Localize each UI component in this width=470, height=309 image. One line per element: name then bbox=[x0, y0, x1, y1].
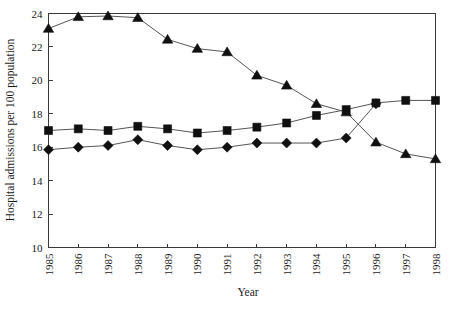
y-axis-title: Hospital admissions per 100 population bbox=[4, 38, 17, 221]
data-point-diamond bbox=[311, 138, 321, 148]
x-tick-labels: 1985198619871988198919901991199219931994… bbox=[43, 253, 442, 276]
data-point-diamond bbox=[133, 135, 143, 145]
x-tick-label: 1986 bbox=[72, 253, 84, 276]
data-point-diamond bbox=[192, 145, 202, 155]
y-tick-label: 16 bbox=[32, 141, 44, 153]
y-tick-label: 24 bbox=[32, 8, 44, 20]
data-point-triangle bbox=[311, 99, 321, 108]
data-point-diamond bbox=[44, 145, 54, 155]
x-tick-label: 1996 bbox=[370, 253, 382, 276]
data-point-square bbox=[402, 96, 410, 104]
y-tick-label: 14 bbox=[32, 175, 44, 187]
data-point-diamond bbox=[282, 138, 292, 148]
data-point-square bbox=[134, 122, 142, 130]
data-point-diamond bbox=[163, 141, 173, 151]
data-point-square bbox=[342, 106, 350, 114]
x-tick-label: 1988 bbox=[132, 253, 144, 276]
series-layer bbox=[43, 11, 440, 163]
data-point-diamond bbox=[73, 142, 83, 152]
x-tick-label: 1997 bbox=[400, 253, 412, 276]
data-point-square bbox=[74, 125, 82, 133]
data-point-triangle bbox=[43, 24, 53, 33]
data-point-square bbox=[253, 123, 261, 131]
x-tick-label: 1994 bbox=[310, 253, 322, 276]
data-point-triangle bbox=[252, 70, 262, 79]
x-axis-ticks bbox=[49, 244, 436, 248]
y-tick-label: 12 bbox=[32, 208, 43, 220]
line-chart: 1012141618202224 19851986198719881989199… bbox=[0, 0, 470, 309]
y-tick-label: 20 bbox=[32, 74, 44, 86]
x-tick-label: 1993 bbox=[281, 253, 293, 276]
x-tick-label: 1989 bbox=[162, 253, 174, 276]
data-point-diamond bbox=[222, 142, 232, 152]
y-tick-label: 10 bbox=[32, 242, 44, 254]
series-line-triangle bbox=[49, 16, 436, 159]
x-tick-label: 1998 bbox=[430, 253, 442, 276]
data-point-square bbox=[164, 125, 172, 133]
x-axis-title: Year bbox=[237, 286, 258, 298]
x-tick-label: 1995 bbox=[340, 253, 352, 276]
data-point-square bbox=[432, 96, 440, 104]
data-point-square bbox=[223, 127, 231, 135]
data-point-square bbox=[312, 111, 320, 119]
chart-container: 1012141618202224 19851986198719881989199… bbox=[0, 0, 470, 309]
series-triangle bbox=[43, 11, 440, 163]
data-point-diamond bbox=[252, 138, 262, 148]
x-tick-label: 1987 bbox=[102, 253, 114, 276]
y-tick-label: 22 bbox=[32, 41, 43, 53]
data-point-triangle bbox=[162, 34, 172, 43]
x-tick-label: 1991 bbox=[221, 254, 233, 276]
x-tick-label: 1990 bbox=[191, 253, 203, 276]
x-tick-label: 1992 bbox=[251, 254, 263, 276]
data-point-triangle bbox=[401, 149, 411, 158]
data-point-square bbox=[193, 129, 201, 137]
data-point-square bbox=[45, 127, 53, 135]
series-square bbox=[45, 96, 440, 137]
data-point-diamond bbox=[103, 141, 113, 151]
x-tick-label: 1985 bbox=[43, 253, 55, 276]
data-point-triangle bbox=[103, 11, 113, 20]
data-point-triangle bbox=[281, 80, 291, 89]
y-tick-labels: 1012141618202224 bbox=[32, 8, 44, 254]
y-tick-label: 18 bbox=[32, 108, 44, 120]
data-point-square bbox=[283, 119, 291, 127]
data-point-square bbox=[104, 127, 112, 135]
series-line-diamond bbox=[49, 104, 376, 150]
